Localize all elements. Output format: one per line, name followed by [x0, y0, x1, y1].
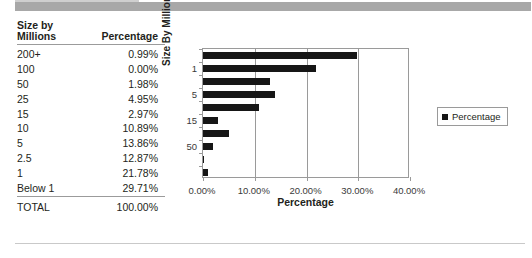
chart-bar [203, 130, 229, 137]
cell-percentage-value: 10.89% [73, 121, 165, 136]
bar-chart: Size By Millions Percentage 1515500.00%1… [163, 40, 423, 205]
footer-rule [15, 243, 525, 244]
table-row: 200+0.99% [17, 45, 165, 62]
y-axis-title: Size By Millions [161, 0, 172, 66]
square-swatch-icon [442, 114, 448, 120]
table-row: 1010.89% [17, 121, 165, 136]
x-axis-tick-label: 10.00% [238, 185, 270, 196]
x-axis-tick [203, 177, 204, 181]
cell-total-label: TOTAL [17, 196, 73, 214]
cell-percentage-value: 0.99% [73, 45, 165, 62]
x-axis-tick [410, 177, 411, 181]
y-axis-tick-label: 15 [186, 114, 197, 125]
table-total-row: TOTAL100.00% [17, 196, 165, 214]
legend-label-percentage: Percentage [452, 111, 501, 122]
table-row: 254.95% [17, 91, 165, 106]
cell-size-label: 50 [17, 77, 73, 92]
cell-percentage-value: 29.71% [73, 181, 165, 196]
cell-total-value: 100.00% [73, 196, 165, 214]
table-row: 121.78% [17, 166, 165, 181]
table-row: 1000.00% [17, 62, 165, 77]
chart-bar [203, 143, 213, 150]
chart-bar [203, 104, 259, 111]
chart-bar [203, 78, 270, 85]
table-row: 513.86% [17, 136, 165, 151]
cell-percentage-value: 21.78% [73, 166, 165, 181]
x-axis-tick [255, 177, 256, 181]
y-axis-tick [199, 49, 203, 50]
x-axis-tick-label: 40.00% [393, 185, 425, 196]
chart-bar [203, 156, 204, 163]
column-header-size-line1: Size by [17, 20, 73, 31]
frequency-table-panel: Size by Millions Percentage 200+0.99%100… [17, 20, 165, 214]
column-header-size: Size by Millions [17, 20, 73, 45]
cell-percentage-value: 13.86% [73, 136, 165, 151]
x-axis-tick-label: 30.00% [341, 185, 373, 196]
cell-size-label: 1 [17, 166, 73, 181]
y-axis-tick [199, 127, 203, 128]
x-axis-tick-label: 20.00% [289, 185, 321, 196]
chart-bar [203, 169, 208, 176]
x-axis-tick [358, 177, 359, 181]
cell-size-label: 2.5 [17, 151, 73, 166]
y-axis-tick [199, 75, 203, 76]
cell-size-label: 5 [17, 136, 73, 151]
cell-percentage-value: 2.97% [73, 106, 165, 121]
y-axis-tick [199, 166, 203, 167]
header-band [15, 2, 531, 11]
cell-percentage-value: 12.87% [73, 151, 165, 166]
table-row: 2.512.87% [17, 151, 165, 166]
chart-legend: Percentage [437, 107, 508, 126]
frequency-table: Size by Millions Percentage 200+0.99%100… [17, 20, 165, 214]
cell-size-label: 25 [17, 91, 73, 106]
y-axis-tick-label: 50 [186, 140, 197, 151]
chart-bar [203, 65, 316, 72]
chart-gridline [358, 49, 359, 177]
x-axis-title: Percentage [202, 196, 409, 208]
x-axis-tick-label: 0.00% [189, 185, 216, 196]
cell-size-label: 200+ [17, 45, 73, 62]
cell-size-label: 100 [17, 62, 73, 77]
y-axis-tick [199, 153, 203, 154]
table-row: Below 129.71% [17, 181, 165, 196]
plot-area [202, 48, 409, 178]
column-header-percentage: Percentage [73, 20, 165, 45]
cell-percentage-value: 1.98% [73, 77, 165, 92]
table-row: 501.98% [17, 77, 165, 92]
y-axis-tick [199, 114, 203, 115]
cell-percentage-value: 0.00% [73, 62, 165, 77]
column-header-size-line2: Millions [17, 31, 73, 42]
y-axis-tick-label: 1 [192, 62, 197, 73]
y-axis-tick [199, 88, 203, 89]
table-row: 152.97% [17, 106, 165, 121]
cell-size-label: 10 [17, 121, 73, 136]
table-body: 200+0.99%1000.00%501.98%254.95%152.97%10… [17, 45, 165, 215]
cell-size-label: 15 [17, 106, 73, 121]
chart-bar [203, 91, 275, 98]
x-axis-tick [307, 177, 308, 181]
y-axis-tick [199, 140, 203, 141]
y-axis-tick [199, 62, 203, 63]
table-header-row: Size by Millions Percentage [17, 20, 165, 45]
chart-bar [203, 117, 218, 124]
cell-size-label: Below 1 [17, 181, 73, 196]
cell-percentage-value: 4.95% [73, 91, 165, 106]
y-axis-tick [199, 101, 203, 102]
chart-bar [203, 52, 357, 59]
y-axis-tick-label: 5 [192, 88, 197, 99]
